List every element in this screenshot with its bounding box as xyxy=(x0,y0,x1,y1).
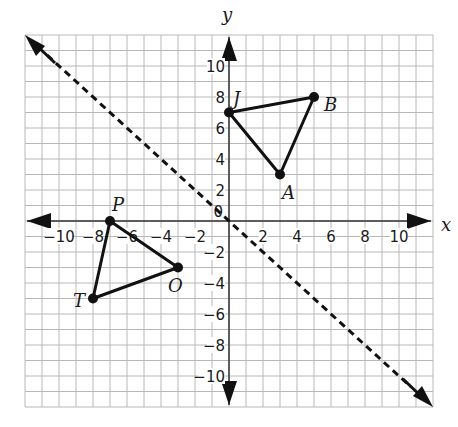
vertex-O xyxy=(173,263,183,273)
vertex-label-B: B xyxy=(323,94,337,115)
vertex-label-T: T xyxy=(73,290,87,311)
vertex-label-O: O xyxy=(168,275,183,296)
x-axis-arrow-right-icon xyxy=(407,213,431,229)
x-axis-label: x xyxy=(441,214,451,235)
triangle-JBA xyxy=(229,97,314,175)
tick-labels: −10−8−6−4−2246810108642−2−4−6−8−100 xyxy=(43,58,408,386)
x-tick-label: 6 xyxy=(326,228,336,246)
y-tick-label: −2 xyxy=(203,244,225,262)
x-tick-label: −10 xyxy=(43,228,75,246)
y-tick-label: 10 xyxy=(206,58,225,76)
x-tick-label: −4 xyxy=(150,228,172,246)
y-tick-label: −6 xyxy=(203,306,225,324)
x-tick-label: 10 xyxy=(389,228,408,246)
y-tick-label: 6 xyxy=(215,120,225,138)
coordinate-plane: xy −10−8−6−4−2246810108642−2−4−6−8−100 J… xyxy=(0,0,458,427)
y-tick-label: 4 xyxy=(215,151,225,169)
vertex-label-A: A xyxy=(280,182,295,203)
y-tick-label: 2 xyxy=(215,182,225,200)
y-axis-label: y xyxy=(221,4,233,25)
x-axis-arrow-left-icon xyxy=(27,213,51,229)
vertex-A xyxy=(275,170,285,180)
vertex-P xyxy=(105,216,115,226)
y-tick-label: −4 xyxy=(203,275,225,293)
vertex-B xyxy=(309,92,319,102)
y-tick-label: 8 xyxy=(215,89,225,107)
x-tick-label: −8 xyxy=(82,228,104,246)
x-tick-label: 8 xyxy=(360,228,370,246)
vertex-label-P: P xyxy=(111,194,125,215)
vertex-label-J: J xyxy=(229,88,242,109)
vertex-J xyxy=(224,108,234,118)
y-tick-label: −10 xyxy=(193,368,225,386)
x-tick-label: 2 xyxy=(258,228,268,246)
x-tick-label: 4 xyxy=(292,228,302,246)
y-tick-label: −8 xyxy=(203,337,225,355)
vertex-T xyxy=(88,294,98,304)
